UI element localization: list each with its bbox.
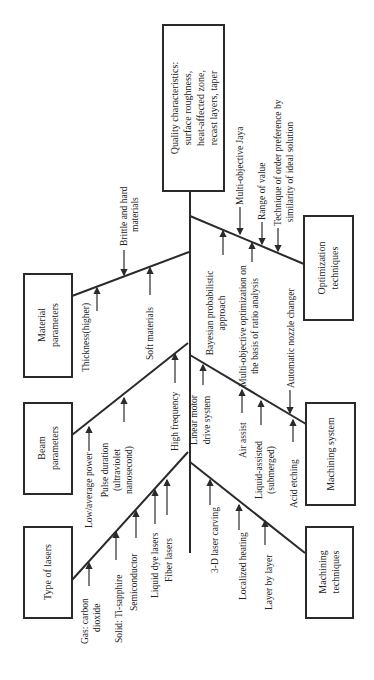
cause-soft-materials: Soft materials [145, 307, 155, 360]
beam-box-line-1: Beam [36, 436, 47, 460]
cause-high-frequency: High frequency [170, 391, 180, 451]
cause-gas-line-1: Gas: carbon [80, 598, 90, 644]
cause-localized-heating: Localized heating [238, 532, 248, 600]
material-box-line-2: parameters [49, 303, 60, 347]
cause-liquid-assisted-line-1: Liquid-assisted [254, 441, 264, 499]
machining-techniques-box-line-2: techniques [330, 551, 341, 594]
head-line-2: surface roughness, [182, 71, 193, 145]
cause-linear-motor-line-2: drive system [202, 395, 212, 444]
cause-liquid-dye: Liquid dye lasers [150, 532, 160, 598]
material-box-line-1: Material [36, 308, 47, 342]
optimization-box-line-1: Optimization [316, 242, 327, 295]
cause-jaya: Multi-objective Jaya [235, 126, 245, 205]
cause-pulse-line-1: Pulse duration [100, 442, 110, 497]
head-line-4: recast layers, taper [208, 70, 219, 145]
cause-air-assist: Air assist [238, 422, 248, 458]
cause-bayesian-line-1: Bayesian probabilistic [205, 271, 215, 356]
cause-liquid-assisted-line-2: (submerged) [266, 446, 277, 494]
optimization-box-line-2: techniques [329, 247, 340, 290]
head-line-3: heat-affected zone, [195, 70, 206, 146]
cause-topsis-line-1: Technique of order preference by [273, 99, 283, 226]
cause-range-of-value: Range of value [257, 162, 267, 220]
cause-layer-by-layer: Layer by layer [264, 554, 274, 610]
cause-gas-line-2: dioxide [92, 604, 102, 633]
cause-brittle-line-2: materials [130, 197, 140, 232]
cause-3d-carving: 3-D laser carving [210, 507, 220, 573]
cause-pulse-line-3: nanosecond) [124, 446, 135, 494]
head-box: Quality characteristics: surface roughne… [163, 25, 224, 191]
cause-pulse-line-2: (ultraviolet [112, 449, 123, 492]
cause-moora-line-2: the basis of ratio analysis [250, 278, 260, 374]
cause-moora-line-1: Multi-objective optimization on [238, 265, 248, 387]
cause-brittle-line-1: Brittle and hard [119, 186, 129, 246]
cause-topsis-line-2: similarity of ideal solution [285, 121, 295, 222]
cause-nozzle-changer: Automatic nozzle changer [286, 287, 296, 388]
cause-acid-etching: Acid etching [289, 459, 299, 508]
machining-system-box-line-1: Machining system [325, 417, 336, 491]
cause-linear-motor-line-1: Linear motor [189, 394, 199, 445]
cause-thickness: Thickness(higher) [81, 303, 92, 372]
cause-semiconductor: Semiconductor [129, 553, 139, 611]
machining-techniques-box-line-1: Machining [317, 550, 328, 593]
cause-fiber: Fiber lasers [164, 538, 174, 582]
category-material-parameters: Material parameters Brittle and hard mat… [24, 186, 189, 377]
material-bone [72, 252, 189, 296]
cause-solid: Solid: Ti-sapphire [114, 575, 124, 643]
cause-bayesian-line-2: approach [217, 295, 227, 330]
cause-low-power: Low/average power [84, 451, 94, 528]
beam-box-line-2: parameters [49, 426, 60, 470]
fishbone-diagram: Quality characteristics: surface roughne… [0, 0, 374, 680]
head-line-1: Quality characteristics: [169, 62, 180, 154]
lasers-box-line-1: Type of lasers [42, 544, 53, 600]
